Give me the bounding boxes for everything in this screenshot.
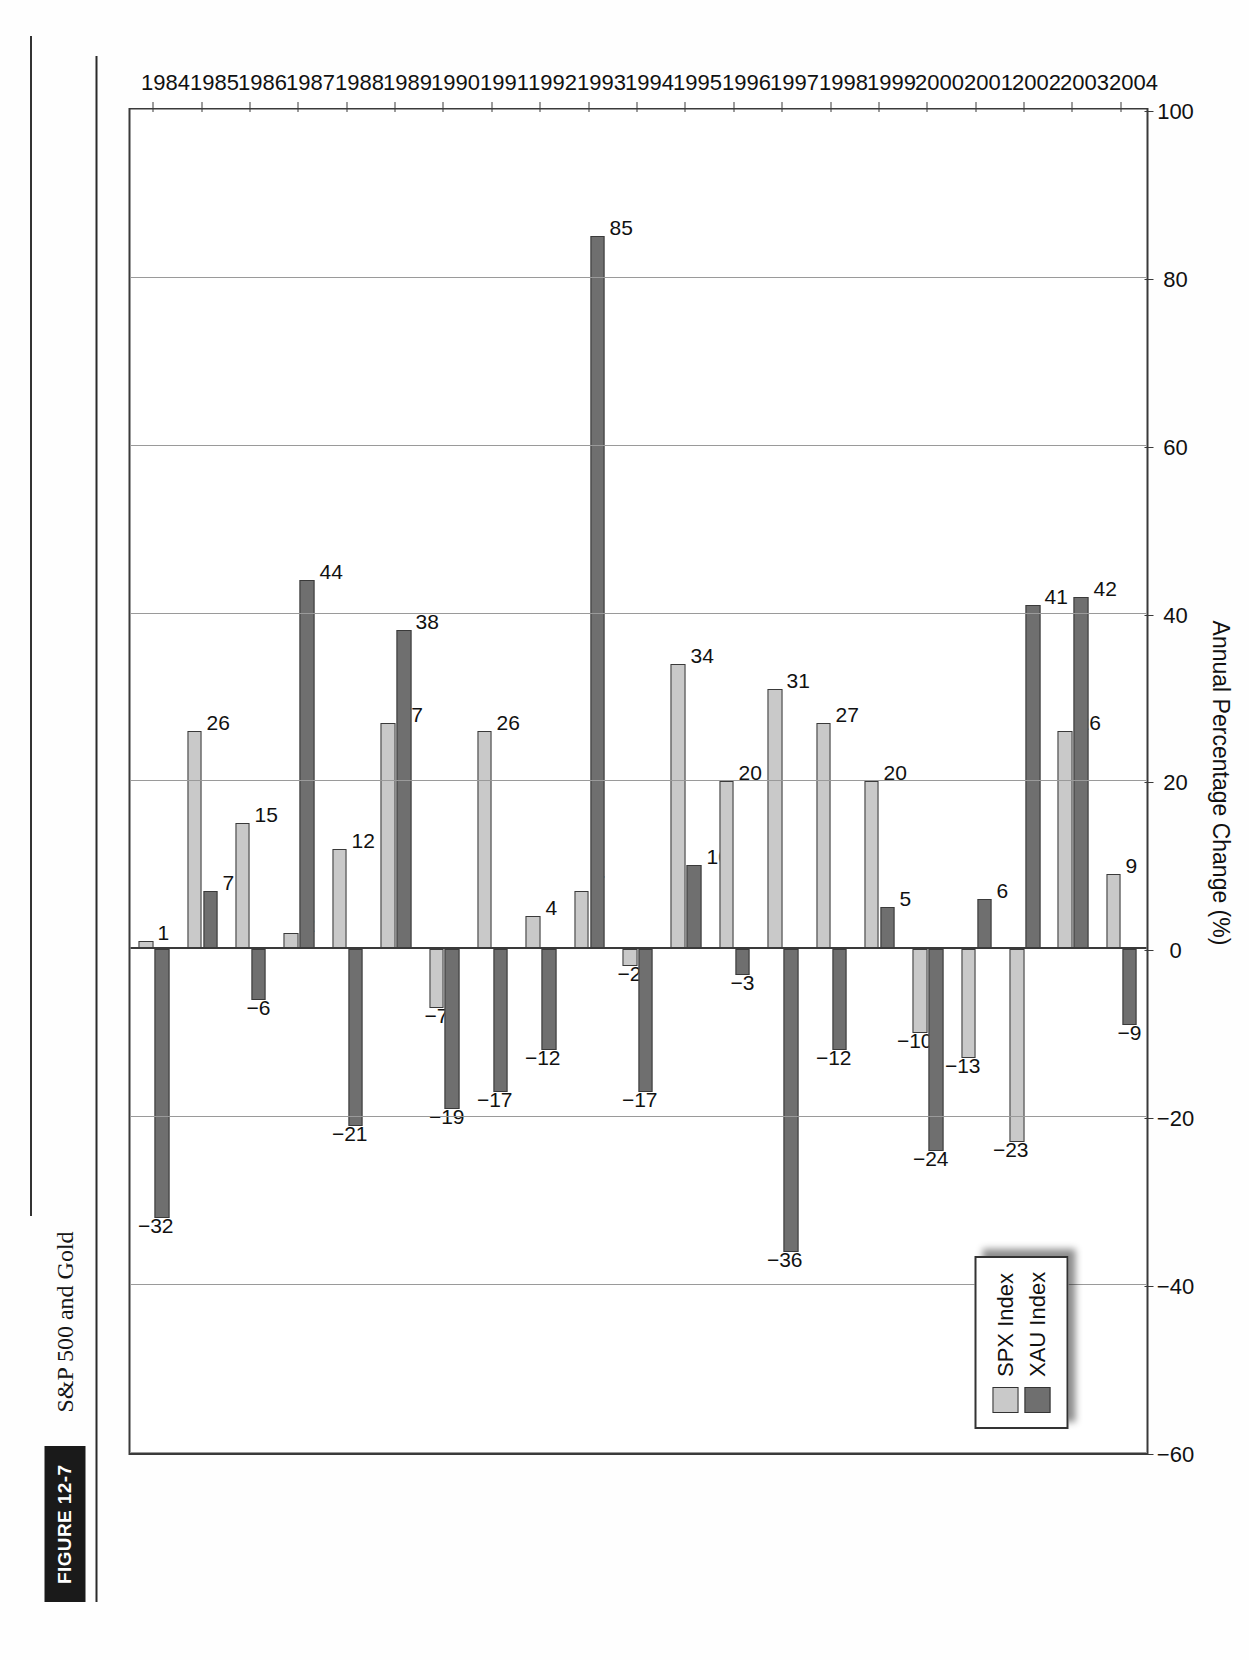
bar-value-label: 20 <box>738 762 761 786</box>
category-axis-label: 1989 <box>383 70 432 96</box>
bar-xau <box>541 949 556 1050</box>
xau-swatch <box>1024 1387 1050 1413</box>
figure-caption: S&P 500 and Gold <box>51 1231 78 1412</box>
bar-value-label: −32 <box>138 1214 174 1238</box>
zero-line <box>130 947 1146 949</box>
category-axis-label: 1994 <box>625 70 674 96</box>
category-axis-label: 1986 <box>237 70 286 96</box>
bar-group: 785 <box>565 110 613 1453</box>
value-axis-tick <box>1144 783 1153 784</box>
bar-value-label: 27 <box>835 703 858 727</box>
legend-item-spx: SPX Index <box>992 1272 1018 1413</box>
category-axis-label: 1991 <box>479 70 528 96</box>
category-axis-tick <box>636 102 637 112</box>
bar-spx <box>1057 731 1072 949</box>
value-axis-label: −40 <box>1153 1274 1197 1300</box>
bar-xau <box>348 949 363 1125</box>
value-axis-tick <box>1144 1286 1153 1287</box>
bar-value-label: −12 <box>525 1046 561 1070</box>
bar-xau <box>977 899 992 949</box>
value-axis-label: 0 <box>1153 938 1197 964</box>
bar-spx <box>670 664 685 949</box>
bar-xau <box>832 949 847 1050</box>
bar-value-label: −23 <box>993 1138 1029 1162</box>
category-axis-label: 2000 <box>915 70 964 96</box>
bar-value-label: −10 <box>896 1029 932 1053</box>
bar-spx <box>816 723 831 950</box>
bars-layer: 1−3226715−624412−212738−7−1926−174−12785… <box>130 110 1146 1453</box>
bar-value-label: −6 <box>246 996 270 1020</box>
bar-xau <box>154 949 169 1218</box>
bar-value-label: −17 <box>476 1088 512 1112</box>
bar-xau <box>444 949 459 1108</box>
bar-spx <box>235 823 250 949</box>
gridline <box>130 781 1146 782</box>
category-axis-label: 2004 <box>1108 70 1157 96</box>
bar-group: 27−12 <box>807 110 855 1453</box>
gridline <box>130 1452 1146 1453</box>
category-axis-tick <box>1023 102 1024 112</box>
bar-value-label: 20 <box>883 762 906 786</box>
bar-group: 12−21 <box>324 110 372 1453</box>
category-axis-tick <box>394 102 395 112</box>
category-axis-label: 1997 <box>770 70 819 96</box>
bar-group: 244 <box>275 110 323 1453</box>
bar-spx <box>380 723 395 950</box>
bar-spx <box>574 891 589 950</box>
bar-group: −136 <box>952 110 1000 1453</box>
bar-value-label: 9 <box>1125 854 1137 878</box>
value-axis-label: −60 <box>1153 1442 1197 1468</box>
value-axis-tick <box>1144 615 1153 616</box>
bar-xau <box>396 630 411 949</box>
bar-spx <box>1009 949 1024 1142</box>
category-axis-tick <box>830 102 831 112</box>
legend-label-spx: SPX Index <box>992 1273 1018 1377</box>
bar-xau <box>783 949 798 1251</box>
bar-xau <box>299 580 314 949</box>
bar-spx <box>187 731 202 949</box>
bar-value-label: 12 <box>351 829 374 853</box>
bar-group: 3410 <box>662 110 710 1453</box>
gridline <box>130 445 1146 446</box>
value-axis-tick <box>1144 1454 1153 1455</box>
bar-spx <box>767 689 782 949</box>
category-axis-tick <box>346 102 347 112</box>
bar-spx <box>864 782 879 950</box>
bar-value-label: −21 <box>331 1122 367 1146</box>
bar-spx <box>332 849 347 950</box>
value-axis-tick <box>1144 447 1153 448</box>
bar-value-label: 31 <box>786 669 809 693</box>
bar-value-label: −36 <box>767 1248 803 1272</box>
value-axis-title: Annual Percentage Change (%) <box>1206 594 1233 974</box>
category-axis-label: 2002 <box>1012 70 1061 96</box>
legend-item-xau: XAU Index <box>1024 1272 1050 1413</box>
bar-group: −2341 <box>1001 110 1049 1453</box>
figure-page: FIGURE 12-7 S&P 500 and Gold 1−3226715−6… <box>0 0 1249 1660</box>
bar-group: −10−24 <box>904 110 952 1453</box>
category-axis-tick <box>491 102 492 112</box>
category-axis-label: 1984 <box>141 70 190 96</box>
bar-xau <box>1025 605 1040 949</box>
gridline <box>130 277 1146 278</box>
bar-value-label: −13 <box>944 1055 980 1079</box>
category-axis-tick <box>152 102 153 112</box>
category-axis-label: 2003 <box>1060 70 1109 96</box>
bar-xau <box>590 236 605 949</box>
category-axis-label: 1998 <box>818 70 867 96</box>
bar-group: 20−3 <box>711 110 759 1453</box>
bar-group: 31−36 <box>759 110 807 1453</box>
value-axis-label: 100 <box>1153 99 1197 125</box>
bar-spx <box>912 949 927 1033</box>
bar-group: 9−9 <box>1098 110 1146 1453</box>
value-axis-tick <box>1144 950 1153 951</box>
bar-spx <box>525 916 540 950</box>
category-axis-tick <box>297 102 298 112</box>
value-axis-label: 40 <box>1153 603 1197 629</box>
bar-xau <box>1073 597 1088 950</box>
value-axis-label: 20 <box>1153 771 1197 797</box>
bar-spx <box>477 731 492 949</box>
figure-header: FIGURE 12-7 S&P 500 and Gold <box>44 1231 85 1602</box>
header-divider <box>95 56 97 1602</box>
value-axis-tick <box>1144 111 1153 112</box>
value-axis-tick <box>1144 1118 1153 1119</box>
